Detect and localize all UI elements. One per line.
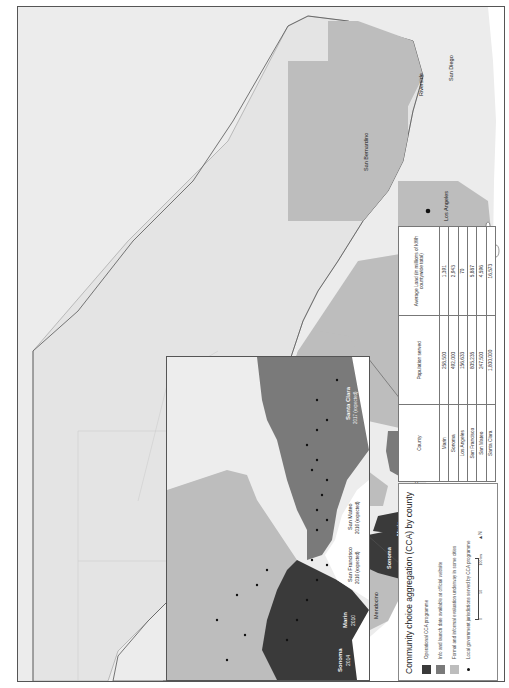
map-frame: Humboldt Mendocino Lake Sonoma Napa Yolo…: [17, 6, 505, 682]
inset-label-santaclara-year: 2017 (expected): [353, 391, 358, 424]
table-cell: Los Angeles: [458, 405, 467, 482]
table-cell: San Mateo: [477, 405, 486, 482]
table-row: San Francisco805,2355,887: [467, 227, 476, 482]
table-cell: 2,943: [449, 227, 458, 316]
inset-label-sonoma: Sonoma: [337, 648, 343, 672]
la-jurisdiction-dot: [426, 209, 431, 214]
legend-swatch-operational: [422, 665, 431, 674]
table-row: Marin258,5001,391: [440, 227, 449, 482]
inset-map: Sonoma 2014 Marin 2010 San Francisco 201…: [166, 356, 370, 681]
legend-label: Info and launch date available at offici…: [438, 562, 443, 659]
cca-table: County Population served Average Load (i…: [398, 226, 496, 482]
table-cell: 258,500: [440, 316, 449, 405]
legend-swatch-launch-date: [436, 665, 445, 674]
map-label: Riverside: [418, 73, 424, 96]
legend-item-formal-eval: Formal and informal evaluation underway …: [449, 546, 459, 674]
map-label: San Bernardino: [363, 133, 369, 171]
table-cell: 156,633: [458, 316, 467, 405]
north-arrow-icon: ▲N: [477, 531, 483, 540]
scale-tick: 100 km: [479, 554, 483, 565]
table-header: County: [399, 405, 440, 482]
table-cell: Marin: [440, 405, 449, 482]
inset-label-sanmateo: San Mateo: [347, 503, 353, 530]
table-row: Los Angeles156,63370: [458, 227, 467, 482]
table-cell: Sonoma: [449, 405, 458, 482]
rotated-figure: Humboldt Mendocino Lake Sonoma Napa Yolo…: [0, 0, 509, 688]
legend-title: Community choice aggregation (CCA) by co…: [404, 492, 414, 674]
map-label: Sonoma: [386, 547, 392, 569]
table-row: Santa Clara1,800,00016,573: [486, 227, 495, 482]
legend-swatch-formal-eval: [450, 665, 459, 674]
inset-label-sf: San Francisco: [347, 547, 353, 582]
table-cell: 70: [458, 227, 467, 316]
scale-tick: 0: [479, 618, 483, 620]
table-header: Population served: [399, 316, 440, 405]
table-cell: 16,573: [486, 227, 495, 316]
inset-label-sf-year: 2016 (expected): [355, 551, 360, 584]
table-cell: Santa Clara: [486, 405, 495, 482]
inset-label-sonoma-year: 2014: [345, 655, 351, 666]
legend-item-jurisdiction: Local government jurisdictions served by…: [463, 541, 473, 674]
inset-label-santaclara: Santa Clara: [345, 387, 351, 420]
legend-dot-icon: [467, 668, 470, 671]
table-header: Average Load (in millions of kWh countyw…: [399, 227, 440, 316]
table-cell: 247,500: [477, 316, 486, 405]
table-cell: 492,000: [449, 316, 458, 405]
legend: Community choice aggregation (CCA) by co…: [398, 483, 498, 681]
table-cell: San Francisco: [467, 405, 476, 482]
legend-item-launch-date: Info and launch date available at offici…: [435, 562, 445, 674]
inset-map-svg: [167, 357, 369, 680]
scale-bar: 0 50 100 km: [475, 554, 483, 620]
table-cell: 4,596: [477, 227, 486, 316]
scale-tick: 50: [479, 590, 483, 594]
legend-label: Operational CCA programme: [424, 600, 429, 659]
map-label: Los Angeles: [443, 191, 449, 221]
table-row: San Mateo247,5004,596: [477, 227, 486, 482]
table-cell: 1,800,000: [486, 316, 495, 405]
table-cell: 1,391: [440, 227, 449, 316]
legend-label: Formal and informal evaluation underway …: [452, 546, 457, 659]
map-label: Mendocino: [373, 592, 379, 619]
inset-label-sanmateo-year: 2016 (expected): [355, 501, 360, 534]
inset-label-marin-year: 2010: [350, 615, 356, 626]
table-row: Sonoma492,0002,943: [449, 227, 458, 482]
legend-label: Local government jurisdictions served by…: [466, 541, 471, 659]
legend-item-operational: Operational CCA programme: [421, 600, 431, 674]
table-cell: 5,887: [467, 227, 476, 316]
inset-label-marin: Marin: [342, 612, 348, 628]
table-header-row: County Population served Average Load (i…: [399, 227, 440, 482]
map-label: San Diego: [448, 55, 454, 81]
table-cell: 805,235: [467, 316, 476, 405]
